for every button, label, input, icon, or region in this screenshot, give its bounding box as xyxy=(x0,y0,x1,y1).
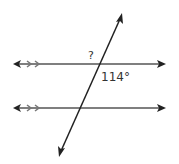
transversal-line xyxy=(58,13,123,157)
arrowhead-down-icon xyxy=(58,146,65,157)
parallel-lines-diagram: ? 114° xyxy=(0,0,179,164)
parallel-line-bottom xyxy=(13,104,166,112)
unknown-angle-label: ? xyxy=(88,49,94,62)
given-angle-label: 114° xyxy=(101,70,130,84)
arrowhead-up-icon xyxy=(116,13,123,24)
